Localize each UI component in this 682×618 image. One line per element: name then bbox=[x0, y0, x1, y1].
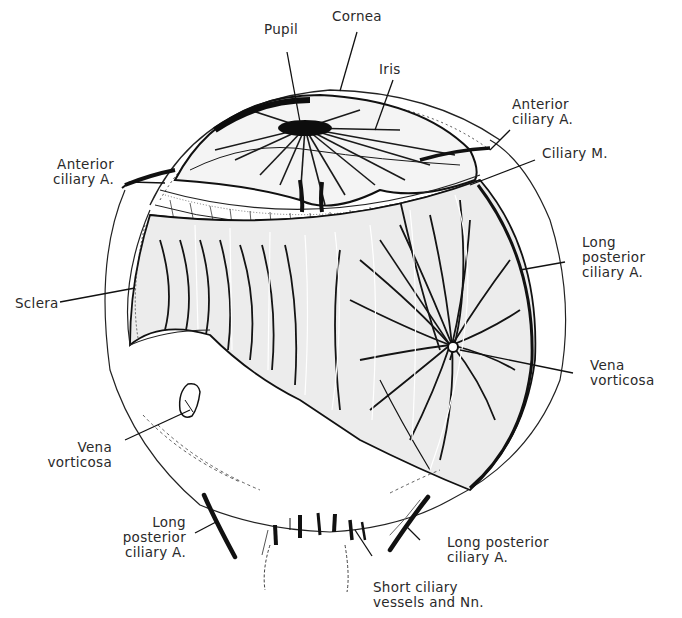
label-cornea: Cornea bbox=[332, 9, 382, 24]
label-iris: Iris bbox=[379, 62, 401, 77]
pupil-shape bbox=[278, 120, 332, 136]
eye-vascular-diagram bbox=[0, 0, 682, 618]
label-long-posterior-ciliary-artery-lower-left: Long posterior ciliary A. bbox=[108, 515, 186, 560]
label-short-ciliary-vessels-and-nerves: Short ciliary vessels and Nn. bbox=[373, 580, 484, 610]
vena-vorticosa-left-shape bbox=[180, 384, 200, 417]
label-ciliary-muscle: Ciliary M. bbox=[542, 146, 608, 161]
label-pupil: Pupil bbox=[264, 22, 298, 37]
label-vena-vorticosa-left: Vena vorticosa bbox=[40, 440, 112, 470]
vena-vorticosa-right-shape bbox=[448, 342, 458, 352]
label-anterior-ciliary-artery-left: Anterior ciliary A. bbox=[38, 157, 114, 187]
label-vena-vorticosa-right: Vena vorticosa bbox=[590, 358, 655, 388]
choroid bbox=[130, 180, 535, 490]
long-posterior-ciliary-arteries bbox=[204, 495, 428, 557]
label-long-posterior-ciliary-artery-right-upper: Long posterior ciliary A. bbox=[582, 235, 645, 280]
iris-region bbox=[175, 95, 477, 206]
label-sclera: Sclera bbox=[15, 296, 59, 311]
label-long-posterior-ciliary-artery-lower-right: Long posterior ciliary A. bbox=[447, 535, 549, 565]
optic-nerve-region bbox=[262, 513, 365, 592]
label-anterior-ciliary-artery-right: Anterior ciliary A. bbox=[512, 97, 573, 127]
